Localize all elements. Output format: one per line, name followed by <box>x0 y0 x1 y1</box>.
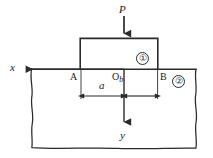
region-two-marker: ② <box>172 75 185 88</box>
contact-mechanics-figure: P x y A Ob B a ① ② <box>0 0 213 158</box>
region-one-marker: ① <box>136 52 149 65</box>
y-axis-label: y <box>120 130 125 141</box>
load-label: P <box>119 4 126 15</box>
x-axis-label: x <box>10 62 15 73</box>
point-a-label: A <box>70 72 77 82</box>
point-o-subscript: b <box>119 75 123 84</box>
point-b-label: B <box>160 72 167 82</box>
point-o-label: Ob <box>112 72 123 84</box>
dimension-a-label: a <box>99 80 105 91</box>
